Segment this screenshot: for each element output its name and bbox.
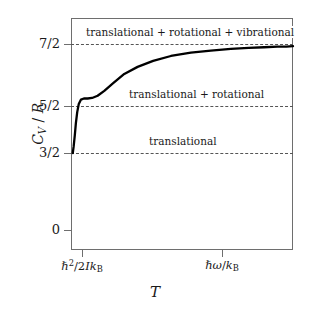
curve-layer bbox=[0, 0, 310, 312]
heat-capacity-figure: 7/2 5/2 3/2 0 CV / R ℏ2/2IkB ℏω/kB T tra… bbox=[0, 0, 310, 312]
heat-capacity-curve bbox=[73, 46, 293, 153]
